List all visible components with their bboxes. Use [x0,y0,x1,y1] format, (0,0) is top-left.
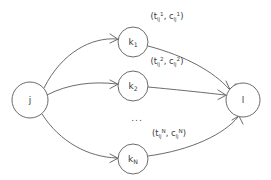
node-label-j: j [29,96,32,105]
edge-label-2-close: ) [180,56,183,66]
edge-label-N-close: ) [183,128,186,138]
edge-k2-to-l [148,87,225,95]
edge-label-2: (tlj2, clj2) [151,57,184,66]
node-label-kN-sub: N [133,157,138,164]
edge-label-2-t-sup: 2 [160,55,164,61]
node-label-l-text: l [242,95,245,105]
edge-label-N-c-sup: N [179,127,183,133]
diagram-canvas: j k1 k2 kN l (tlj1, clj1) (tlj2, clj2) (… [0,0,271,180]
edge-label-2-c-sup: 2 [177,55,181,61]
node-label-k1-sub: 1 [134,40,138,47]
edge-label-N-t-sup: N [161,127,165,133]
node-label-kN: kN [128,155,138,164]
node-label-k2-sub: 2 [134,84,138,91]
edge-label-1-close: ) [180,11,183,21]
edge-label-N: (tljN, cljN) [152,129,186,138]
edge-label-1-c-sup: 1 [177,10,181,16]
edge-j-to-kN [42,114,117,158]
edge-j-to-k1 [44,39,117,88]
node-label-j-text: j [29,95,32,105]
node-label-l: l [242,96,245,105]
edge-label-1-t-sup: 1 [160,10,164,16]
node-group [12,27,260,174]
edge-j-to-k2 [47,83,117,95]
ellipsis-label: ... [131,114,143,123]
edge-k1-to-l [148,46,229,89]
node-label-k2: k2 [128,82,137,91]
node-label-k1: k1 [128,38,137,47]
edge-label-1: (tlj1, clj1) [151,12,184,21]
